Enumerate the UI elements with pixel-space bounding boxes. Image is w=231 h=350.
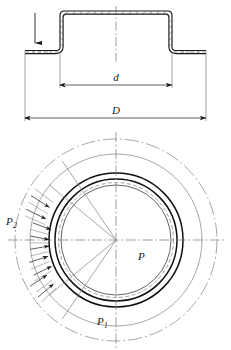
dimension-d: d [60,71,172,85]
technical-drawing: d D [0,0,231,350]
dimension-D-label: D [111,104,120,116]
dimension-d-label: d [113,71,119,83]
section-hatching [32,11,198,53]
pressure-p2-label: P [5,215,13,227]
pressure-center-label: P [137,250,145,262]
dimension-D: D [25,104,206,118]
sheet-inner-contour [25,14,206,54]
pressure-cell-dividers [25,189,56,302]
pressure-p1-subscript: 1 [104,321,108,330]
section-view: d D [25,6,206,121]
pressure-p1-label: P [96,315,104,327]
plan-view: P P 1 P 2 [5,132,224,348]
sheet-outer-contour [25,11,206,51]
pressure-p2-subscript: 2 [13,221,17,230]
plan-labels: P P 1 P 2 [5,215,145,330]
